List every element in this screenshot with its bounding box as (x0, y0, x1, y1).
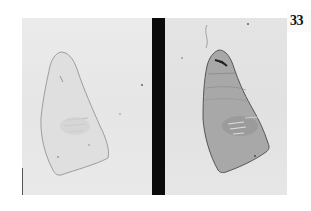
plate-number: 33 (290, 13, 303, 29)
speck-mark (119, 113, 120, 114)
left-specimen (41, 52, 109, 175)
right-specimen (181, 23, 269, 173)
specimen-drawings (0, 0, 311, 211)
figure-plate: 33 (0, 0, 311, 211)
speck-mark (141, 84, 143, 86)
